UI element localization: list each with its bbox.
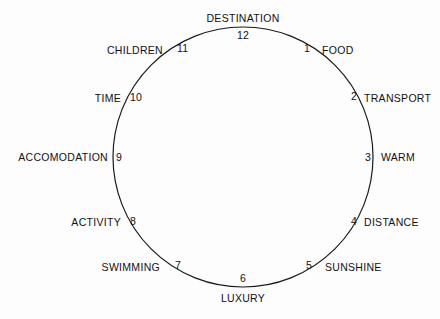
- clock-number-4: 4: [351, 216, 357, 227]
- clock-label-children: CHILDREN: [107, 45, 163, 56]
- clock-label-sunshine: SUNSHINE: [325, 262, 382, 273]
- clock-label-luxury: LUXURY: [221, 293, 265, 304]
- clock-number-9: 9: [116, 152, 122, 163]
- clock-number-3: 3: [365, 152, 371, 163]
- clock-number-1: 1: [304, 43, 310, 54]
- clock-diagram: DESTINATION12FOOD1TRANSPORT2WARM3DISTANC…: [0, 0, 440, 319]
- clock-number-12: 12: [237, 30, 249, 41]
- main-circle: [113, 27, 373, 287]
- clock-number-6: 6: [240, 273, 246, 284]
- clock-number-10: 10: [130, 92, 142, 103]
- clock-label-food: FOOD: [322, 45, 354, 56]
- clock-label-activity: ACTIVITY: [71, 217, 121, 228]
- clock-label-transport: TRANSPORT: [364, 93, 431, 104]
- clock-number-8: 8: [130, 216, 136, 227]
- clock-number-11: 11: [177, 43, 188, 54]
- clock-label-swimming: SWIMMING: [102, 262, 160, 273]
- clock-label-time: TIME: [95, 93, 121, 104]
- clock-label-distance: DISTANCE: [364, 217, 419, 228]
- clock-label-destination: DESTINATION: [206, 13, 279, 24]
- clock-number-2: 2: [351, 91, 357, 102]
- clock-label-warm: WARM: [381, 152, 415, 163]
- clock-label-accomodation: ACCOMODATION: [18, 152, 108, 163]
- clock-number-7: 7: [175, 260, 181, 271]
- clock-number-5: 5: [306, 260, 312, 271]
